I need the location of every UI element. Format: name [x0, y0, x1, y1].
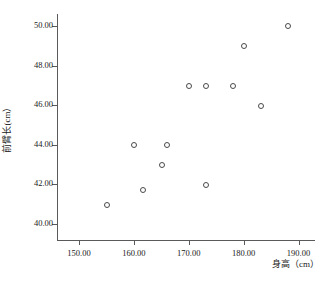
y-axis-tick-label: 40.00: [34, 217, 53, 230]
y-axis-tick-label: 50.00: [34, 19, 53, 32]
data-point: [258, 103, 264, 109]
data-point: [230, 83, 236, 89]
x-axis-title: 身高（cm）: [0, 258, 319, 270]
y-axis-tick-label: 44.00: [34, 138, 53, 151]
x-axis-tick-mark: [189, 240, 190, 245]
y-axis-tick-label: 46.00: [34, 98, 53, 111]
scatter-chart: 前臂长(cm） 40.0042.0044.0046.0048.0050.00 1…: [0, 0, 327, 281]
x-axis-tick-mark: [299, 240, 300, 245]
x-axis-line: [57, 240, 315, 241]
data-point: [159, 162, 165, 168]
y-axis-title-text: 前臂长(cm）: [2, 102, 13, 152]
x-axis-tick-mark: [134, 240, 135, 245]
data-point: [140, 187, 146, 193]
y-axis-tick-label: 42.00: [34, 177, 53, 190]
data-point: [203, 182, 209, 188]
y-axis-tick-label: 48.00: [34, 59, 53, 72]
x-axis-tick-mark: [244, 240, 245, 245]
x-axis-tick-mark: [79, 240, 80, 245]
data-point: [203, 83, 209, 89]
plot-area: [57, 14, 315, 240]
y-axis-title: 前臂长(cm）: [0, 14, 14, 240]
x-axis-title-text: 身高（cm）: [272, 259, 319, 269]
data-point: [104, 202, 110, 208]
